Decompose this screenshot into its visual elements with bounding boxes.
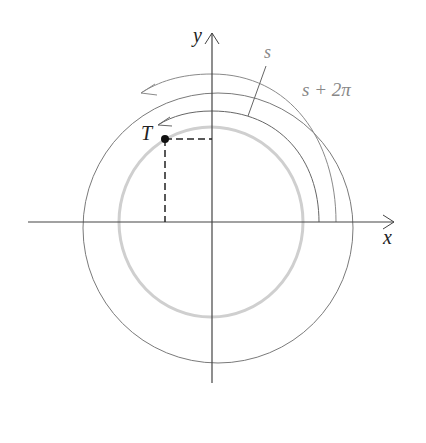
point-t [161,135,169,143]
outer-circle [83,93,353,363]
arc-s-label: s [264,42,271,63]
x-axis-label: x [383,226,392,249]
unit-circle-diagram: y x T s s + 2π [0,0,426,443]
arc-s-plus-2pi-label: s + 2π [302,79,351,101]
y-axis-label: y [193,24,202,47]
s-leader-line [248,66,266,116]
arc-s [158,111,319,222]
diagram-graphics [0,0,426,443]
point-t-label: T [141,122,152,145]
